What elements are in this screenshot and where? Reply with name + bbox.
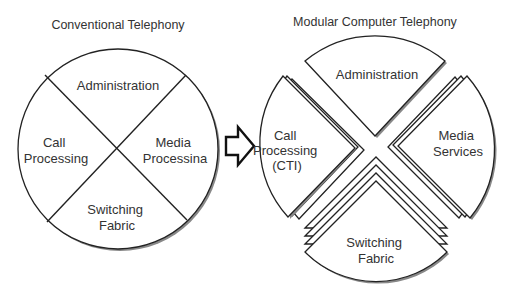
modular-computer-telephony-diagram: Modular Computer Telephony Administratio… (253, 15, 496, 284)
svg-text:Administration: Administration (336, 67, 418, 82)
left-segment-administration: Administration (77, 78, 159, 93)
svg-text:Media Services: Media Services (433, 128, 483, 159)
right-title: Modular Computer Telephony (293, 15, 458, 29)
right-arrow-icon (226, 127, 254, 165)
left-title: Conventional Telephony (51, 18, 185, 32)
conventional-telephony-diagram: Conventional Telephony Administration Ca… (18, 18, 220, 251)
diagram-canvas: Conventional Telephony Administration Ca… (0, 0, 515, 298)
